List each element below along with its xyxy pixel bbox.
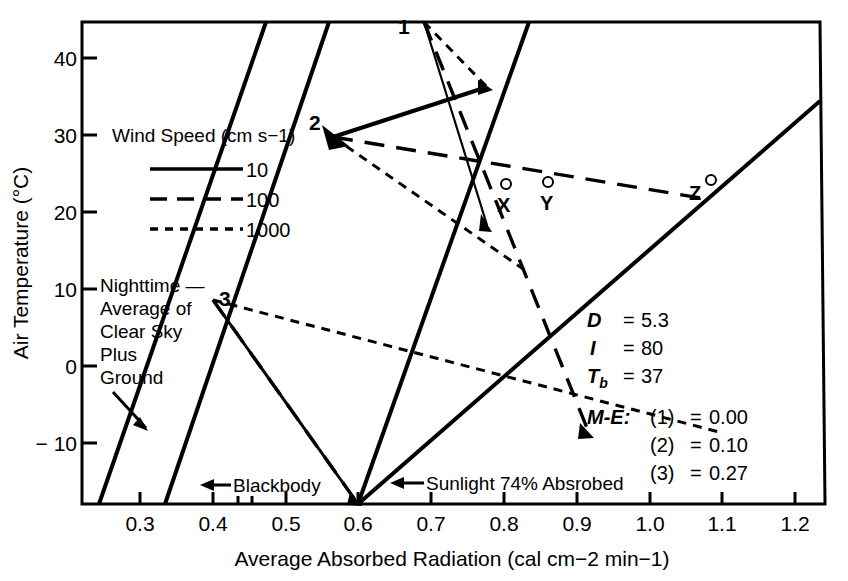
me-eq-2: = [690,434,702,456]
y-tick-label-30: 30 [54,124,77,147]
legend-label-1000: 1000 [246,219,291,241]
param-symbol-d: D [587,309,601,331]
param-value-i: 80 [641,337,663,359]
param-value-tb: 37 [641,365,663,387]
x-tick-label-0-4: 0.4 [198,512,228,535]
y-tick-label-40: 40 [54,47,77,70]
x-tick-label-0-9: 0.9 [562,512,591,535]
ray-2-wind10 [333,87,487,137]
param-symbol-i: I [590,337,596,359]
y-tick-label-0: 0 [65,355,77,378]
y-tick-label-neg10: − 10 [36,432,77,455]
x-tick-label-0-7: 0.7 [416,512,445,535]
marker-circle-z [706,175,716,185]
x-tick-labels: 0.3 0.4 0.5 0.6 0.7 0.8 0.9 1.0 1.1 1.2 [125,512,809,535]
param-value-d: 5.3 [641,309,669,331]
ray-2-wind100 [333,137,701,198]
nighttime-arrow-head [133,417,148,431]
point-label-1: 1 [398,15,410,38]
fan-point-2 [333,87,701,271]
marker-label-z: Z [689,182,701,204]
param-eq-tb: = [623,365,635,387]
me-key-1: (1) [650,406,674,428]
me-row-1: (1) = 0.00 [650,406,748,428]
x-tick-label-1-2: 1.2 [780,512,809,535]
fan-arrowheads [322,80,594,506]
legend-title: Wind Speed (cm s−1) [112,125,295,146]
ray-1-wind10 [424,22,487,225]
param-sub-b: b [599,375,608,391]
legend-entry-1000: 1000 [150,219,291,241]
sunlight-arrow-head [390,477,404,489]
x-tick-label-0-5: 0.5 [271,512,300,535]
me-key-3: (3) [650,462,674,484]
x-axis-title: Average Absorbed Radiation (cal cm−2 min… [234,547,669,570]
sunlight-label: Sunlight 74% Absrobed [426,473,624,494]
chart-svg: 1 2 3 X Y Z Wind Speed (cm s−1) 10 100 1… [0,0,848,581]
marker-circle-x [501,179,511,189]
parameter-block: D = 5.3 I = 80 Tb = 37 [587,309,669,391]
blackbody-annotation: Blackbody [200,475,321,496]
me-value-2: 0.10 [709,434,748,456]
legend-entry-100: 100 [150,189,279,211]
me-row-3: (3) = 0.27 [650,462,748,484]
nighttime-line-4: Plus [100,344,137,365]
x-tick-label-1-1: 1.1 [707,512,736,535]
point-label-3: 3 [219,287,231,310]
legend-label-100: 100 [246,189,279,211]
line-right-boundary [358,101,820,504]
nighttime-line-3: Clear Sky [100,321,183,342]
legend-label-10: 10 [246,159,268,181]
me-eq-1: = [690,406,702,428]
nighttime-line-2: Average of [100,298,192,319]
marker-circle-y [543,177,553,187]
param-symbol-tb: Tb [587,365,608,391]
y-tick-label-20: 20 [54,201,77,224]
x-tick-label-0-6: 0.6 [343,512,372,535]
x-tick-label-0-8: 0.8 [489,512,518,535]
blackbody-arrow-head [200,479,214,491]
me-value-1: 0.00 [709,406,748,428]
me-title: M-E: [587,406,630,428]
me-eq-3: = [690,462,702,484]
legend: Wind Speed (cm s−1) 10 100 1000 [112,125,295,241]
legend-entry-10: 10 [150,159,268,181]
y-axis-ticks [82,58,97,443]
me-row-2: (2) = 0.10 [650,434,748,456]
sunlight-annotation: Sunlight 74% Absrobed [390,473,624,494]
y-tick-labels: 40 30 20 10 0 − 10 [36,47,77,455]
nighttime-line-5: Ground [100,367,163,388]
marker-label-y: Y [540,192,554,214]
x-tick-label-0-3: 0.3 [125,512,154,535]
param-eq-i: = [623,337,635,359]
blackbody-label: Blackbody [233,475,321,496]
line-blackbody [165,22,329,504]
figure-root: 1 2 3 X Y Z Wind Speed (cm s−1) 10 100 1… [0,0,848,581]
arrowhead-ray2-end [478,80,493,95]
x-tick-label-1-0: 1.0 [635,512,664,535]
marker-label-x: X [497,194,511,216]
line-nighttime [99,22,266,504]
param-eq-d: = [623,309,635,331]
y-tick-label-10: 10 [54,278,77,301]
y-axis-title: Air Temperature (°C) [9,167,32,359]
me-value-3: 0.27 [709,462,748,484]
point-label-2: 2 [309,111,321,134]
me-key-2: (2) [650,434,674,456]
nighttime-line-1: Nighttime — [100,275,205,296]
